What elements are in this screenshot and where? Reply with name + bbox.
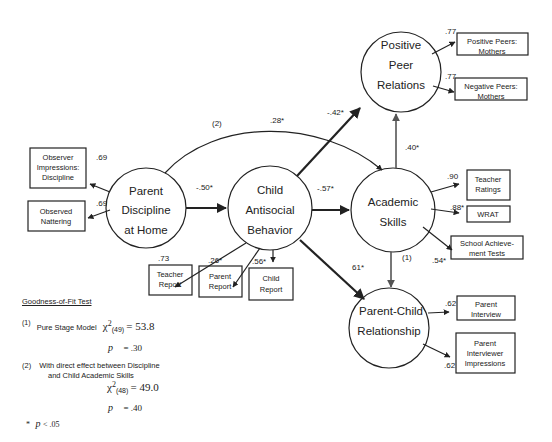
fit-title: Goodness-of-Fit Test <box>22 297 91 306</box>
chi-df: (48) <box>116 387 128 394</box>
loading-value: .73 <box>158 254 170 263</box>
loading-arrow <box>423 227 452 250</box>
model-number: (1) <box>22 319 31 326</box>
node-label: at Home <box>124 224 167 236</box>
box-label: Interview <box>471 310 502 319</box>
box-label: Impressions <box>465 359 506 368</box>
box-label: Nattering <box>41 217 71 226</box>
box-label: Report <box>209 282 232 291</box>
loading-arrow <box>90 184 110 192</box>
box-label: Teacher <box>475 175 502 184</box>
box-label: Impressions: <box>37 163 80 172</box>
box-label: School Achieve- <box>460 239 514 248</box>
p-label: p <box>108 342 113 353</box>
node-label: Skills <box>380 216 407 228</box>
loading-value: .54* <box>432 256 446 265</box>
coef-label: -.50* <box>196 183 213 192</box>
box-label: Teacher <box>157 270 184 279</box>
box-label: Parent <box>475 300 498 309</box>
fit-model-2: (2) With direct effect between Disciplin… <box>22 361 160 370</box>
p-label: p <box>108 402 113 413</box>
loading-arrow <box>423 344 450 357</box>
coef-label: -.57* <box>317 184 334 193</box>
loading-value: .62 <box>444 361 456 370</box>
loading-arrow <box>431 184 459 192</box>
node-label: Relationship <box>357 325 420 337</box>
node-parent-child: Parent-Child Relationship <box>349 288 429 368</box>
box-label: Interviewer <box>467 349 504 358</box>
coef-label: .40* <box>405 143 419 152</box>
loading-arrow <box>428 312 449 313</box>
footnote-p: p <box>36 418 41 429</box>
p-value: = .40 <box>124 403 143 413</box>
model-label: Pure Stage Model <box>37 323 97 332</box>
indicator-observed-nattering <box>28 201 85 231</box>
footnote-star: * <box>26 420 30 429</box>
chi-value: = 49.0 <box>130 381 158 393</box>
box-label: ment Tests <box>469 249 505 258</box>
loading-value: .26* <box>208 256 222 265</box>
model-label: With direct effect between Discipline <box>39 361 159 370</box>
chi-df: (49) <box>112 326 124 333</box>
coef-label: (1) <box>402 253 412 262</box>
loading-value: .56* <box>252 257 266 266</box>
coef-label: (2) <box>212 119 222 128</box>
path-antisocial-peer <box>297 108 360 176</box>
footnote-text: < .05 <box>43 420 60 429</box>
fit-model-1: (1) Pure Stage Model χ2(49) = 53.8 <box>22 319 154 333</box>
fit-model-2-line2: and Child Academic Skills <box>48 371 134 380</box>
box-label: Ratings <box>475 185 501 194</box>
box-label: Observed <box>40 207 73 216</box>
node-label: Relations <box>377 79 425 91</box>
box-label: Negative Peers: <box>464 82 517 91</box>
loading-value: .90 <box>447 172 459 181</box>
box-label: Child <box>262 274 279 283</box>
model-number: (2) <box>22 361 31 370</box>
p-value: = .30 <box>124 343 143 353</box>
loading-value: .69 <box>96 199 108 208</box>
box-label: WRAT <box>477 210 499 219</box>
loading-value: .77 <box>445 27 457 36</box>
box-label: Discipline <box>42 173 74 182</box>
fit-model-2-chi: χ2(48) = 49.0 <box>107 380 159 394</box>
node-child-antisocial: Child Antisocial Behavior <box>228 166 312 250</box>
node-label: Positive <box>381 39 421 51</box>
node-label: Parent <box>129 185 164 197</box>
node-label: Discipline <box>121 204 170 216</box>
box-label: Parent <box>209 272 232 281</box>
box-label: Observer <box>43 153 74 162</box>
box-label: Parent <box>474 339 497 348</box>
box-label: Report <box>260 285 283 294</box>
node-academic-skills: Academic Skills <box>351 168 435 252</box>
fit-model-1-p: p = .30 <box>108 342 142 353</box>
fit-model-2-p: p = .40 <box>108 402 142 413</box>
loading-value: .62 <box>445 299 457 308</box>
node-label: Behavior <box>247 224 293 236</box>
loading-value: .88* <box>450 203 464 212</box>
chi-value: = 53.8 <box>126 320 154 332</box>
node-label: Peer <box>389 59 413 71</box>
node-parent-discipline: Parent Discipline at Home <box>106 168 186 248</box>
path-discipline-academic <box>165 131 382 173</box>
box-label: Mothers <box>478 47 505 56</box>
indicator-child-report <box>249 268 293 300</box>
box-label: Positive Peers: <box>467 37 517 46</box>
node-label: Academic <box>368 196 419 208</box>
node-positive-peer: Positive Peer Relations <box>361 32 441 112</box>
coef-label: -.42* <box>327 108 344 117</box>
box-label: Mothers <box>477 92 504 101</box>
node-label: Parent-Child <box>359 305 423 317</box>
node-label: Child <box>257 184 283 196</box>
loading-arrow <box>432 42 455 54</box>
loading-value: .69 <box>96 153 108 162</box>
coef-label: 61* <box>352 263 364 272</box>
box-label: Report <box>159 280 182 289</box>
footnote: * p < .05 <box>26 418 60 429</box>
coef-label: .28* <box>270 116 284 125</box>
node-label: Antisocial <box>245 204 294 216</box>
